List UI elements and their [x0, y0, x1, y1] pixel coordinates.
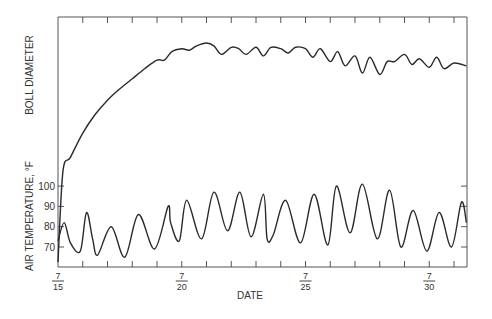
y-tick-label: 70	[44, 242, 56, 253]
x-axis-tick-labels: 715720725730	[52, 271, 435, 292]
boll-diameter-line	[58, 43, 466, 262]
svg-text:15: 15	[53, 282, 63, 292]
svg-text:20: 20	[177, 282, 187, 292]
axis-ticks	[83, 17, 454, 267]
y-axis-label-boll-diameter: BOLL DIAMETER	[24, 35, 35, 115]
svg-text:7: 7	[427, 271, 432, 281]
chart: 708090100 715720725730 BOLL DIAMETER AIR…	[0, 0, 492, 319]
x-tick-label: 730	[423, 271, 435, 292]
svg-text:25: 25	[300, 282, 310, 292]
x-tick-label: 725	[300, 271, 312, 292]
x-axis-label: DATE	[237, 290, 263, 301]
svg-text:7: 7	[55, 271, 60, 281]
svg-text:30: 30	[424, 282, 434, 292]
x-tick-label: 715	[52, 271, 64, 292]
y-tick-label: 100	[38, 181, 55, 192]
y-tick-label: 80	[44, 221, 56, 232]
y-tick-label: 90	[44, 201, 56, 212]
svg-text:7: 7	[303, 271, 308, 281]
svg-text:7: 7	[179, 271, 184, 281]
y-axis-label-air-temperature: AIR TEMPERATURE, °F	[24, 161, 35, 271]
x-tick-label: 720	[176, 271, 188, 292]
air-temperature-line	[58, 184, 466, 257]
